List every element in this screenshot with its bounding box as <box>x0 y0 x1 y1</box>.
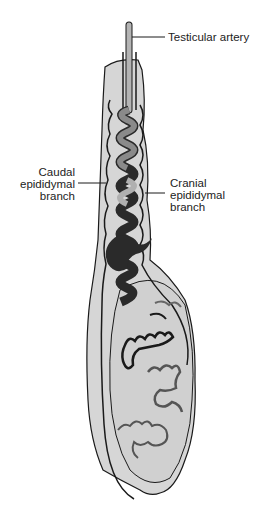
cranial-epididymal-branch-label: Cranial epididymal branch <box>170 177 225 213</box>
anatomy-diagram <box>0 0 273 511</box>
testis-outline <box>110 280 193 482</box>
caudal-epididymal-branch-label: Caudal epididymal branch <box>10 166 75 202</box>
testicular-artery-label: Testicular artery <box>168 31 249 43</box>
